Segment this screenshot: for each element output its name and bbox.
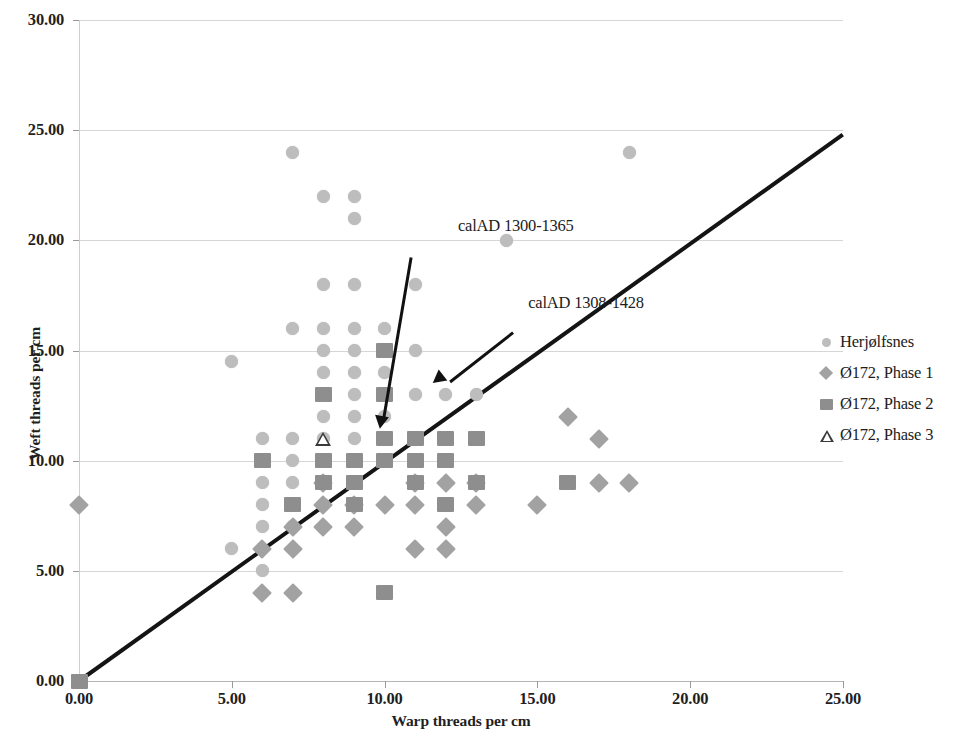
data-point-circle	[409, 344, 422, 357]
data-point-circle	[286, 432, 299, 445]
data-point-square	[346, 453, 363, 468]
data-point-square	[468, 431, 485, 446]
data-point-square	[468, 475, 485, 490]
y-tick-label: 20.00	[0, 230, 64, 250]
data-point-diamond	[436, 539, 456, 559]
data-point-circle	[256, 476, 269, 489]
legend-item-triangle[interactable]: Ø172, Phase 3	[818, 425, 933, 445]
data-point-square	[315, 453, 332, 468]
data-point-circle	[256, 432, 269, 445]
data-point-circle	[623, 146, 636, 159]
gridline-horizontal	[79, 240, 843, 241]
data-point-square	[376, 453, 393, 468]
chart-annotation-label: calAD 1308-1428	[528, 293, 644, 313]
legend-marker-triangle-icon	[818, 426, 836, 444]
data-point-circle	[348, 410, 361, 423]
data-point-diamond	[466, 495, 486, 515]
legend-item-square[interactable]: Ø172, Phase 2	[818, 394, 933, 414]
data-point-circle	[225, 542, 238, 555]
data-point-circle	[256, 564, 269, 577]
legend-item-label: Ø172, Phase 2	[840, 394, 933, 414]
data-point-square	[407, 431, 424, 446]
data-point-diamond	[527, 495, 547, 515]
data-point-diamond	[589, 429, 609, 449]
plot-area	[79, 20, 843, 681]
gridline-horizontal	[79, 130, 843, 131]
x-tick-label: 0.00	[29, 689, 129, 709]
chart-legend: HerjølfsnesØ172, Phase 1Ø172, Phase 2Ø17…	[818, 332, 954, 452]
data-point-diamond	[283, 539, 303, 559]
y-axis-title: Weft threads per cm	[26, 327, 44, 460]
data-point-circle	[378, 322, 391, 335]
data-point-diamond	[69, 495, 89, 515]
data-point-circle	[348, 190, 361, 203]
data-point-diamond	[436, 473, 456, 493]
data-point-circle	[348, 388, 361, 401]
data-point-square	[254, 453, 271, 468]
data-point-diamond	[589, 473, 609, 493]
data-point-circle	[317, 278, 330, 291]
data-point-diamond	[405, 539, 425, 559]
x-axis-tick	[537, 681, 538, 688]
y-tick-label: 0.00	[0, 671, 64, 691]
legend-marker-diamond-icon	[818, 364, 836, 382]
data-point-circle	[348, 322, 361, 335]
y-tick-label: 5.00	[0, 561, 64, 581]
data-point-square	[437, 453, 454, 468]
x-tick-label: 5.00	[182, 689, 282, 709]
data-point-square	[376, 343, 393, 358]
data-point-circle	[409, 388, 422, 401]
data-point-diamond	[375, 495, 395, 515]
data-point-circle	[348, 278, 361, 291]
data-point-diamond	[436, 517, 456, 537]
legend-item-diamond[interactable]: Ø172, Phase 1	[818, 363, 933, 383]
data-point-circle	[256, 520, 269, 533]
data-point-circle	[317, 344, 330, 357]
legend-item-label: Ø172, Phase 1	[840, 363, 933, 383]
data-point-diamond	[283, 583, 303, 603]
y-tick-label: 25.00	[0, 120, 64, 140]
data-point-circle	[317, 366, 330, 379]
x-axis-tick	[385, 681, 386, 688]
data-point-diamond	[558, 407, 578, 427]
data-point-circle	[286, 454, 299, 467]
data-point-circle	[439, 388, 452, 401]
x-tick-label: 20.00	[640, 689, 740, 709]
data-point-circle	[348, 366, 361, 379]
data-point-circle	[225, 355, 238, 368]
data-point-diamond	[619, 473, 639, 493]
x-axis-tick	[843, 681, 844, 688]
data-point-diamond	[314, 517, 334, 537]
data-point-square	[346, 497, 363, 512]
legend-item-circle[interactable]: Herjølfsnes	[818, 332, 914, 352]
x-axis-tick	[232, 681, 233, 688]
data-point-diamond	[405, 495, 425, 515]
data-point-diamond	[344, 517, 364, 537]
gridline-horizontal	[79, 351, 843, 352]
data-point-square	[376, 585, 393, 600]
gridline-horizontal	[79, 461, 843, 462]
data-point-circle	[286, 322, 299, 335]
data-point-circle	[348, 212, 361, 225]
data-point-square	[315, 475, 332, 490]
data-point-circle	[256, 498, 269, 511]
legend-item-label: Herjølfsnes	[840, 332, 914, 352]
data-point-square	[437, 431, 454, 446]
data-point-square	[437, 497, 454, 512]
data-point-circle	[348, 432, 361, 445]
scatter-chart: 0.005.0010.0015.0020.0025.0030.00 0.005.…	[0, 0, 954, 740]
legend-marker-circle-icon	[818, 333, 836, 351]
x-axis-tick	[690, 681, 691, 688]
data-point-square	[315, 387, 332, 402]
legend-item-label: Ø172, Phase 3	[840, 425, 933, 445]
y-axis-line	[79, 20, 80, 681]
data-point-circle	[317, 322, 330, 335]
data-point-square	[559, 475, 576, 490]
data-point-square	[346, 475, 363, 490]
y-tick-label: 30.00	[0, 10, 64, 30]
gridline-horizontal	[79, 571, 843, 572]
data-point-square	[71, 674, 88, 689]
legend-marker-square-icon	[818, 395, 836, 413]
annotation-arrow-head	[372, 415, 388, 430]
data-point-square	[284, 497, 301, 512]
